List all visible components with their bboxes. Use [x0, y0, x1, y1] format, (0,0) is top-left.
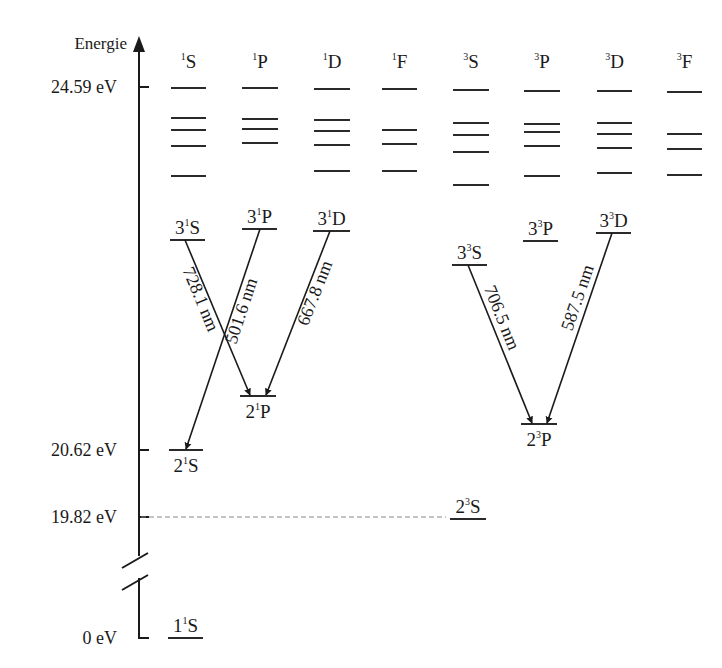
term-column-3D: 3D [597, 51, 632, 173]
wavelength-label: 667.8 nm [293, 258, 336, 329]
state-label: 31D [317, 208, 345, 229]
term-column-3P: 3P [524, 51, 560, 176]
term-header: 1S [181, 51, 197, 72]
axis-tick-label: 0 eV [83, 628, 118, 648]
term-columns: 1S1P1D1F3S3P3D3F [171, 51, 702, 185]
wavelength-label: 706.5 nm [480, 282, 524, 353]
state-3-3P: 33P [523, 218, 558, 241]
energy-axis: Energie24.59 eV20.62 eV19.82 eV0 eV [51, 34, 446, 648]
term-column-1F: 1F [382, 51, 417, 171]
wavelength-label: 728.1 nm [179, 264, 224, 334]
term-column-3F: 3F [667, 51, 702, 175]
axis-arrow-icon [133, 36, 145, 52]
state-label: 23P [526, 429, 551, 450]
state-3-1D: 31D [313, 208, 350, 231]
term-header: 3F [677, 51, 693, 72]
wavelength-label: 501.6 nm [221, 275, 262, 346]
axis-line-lower [139, 578, 149, 638]
state-2-1P: 21P [240, 396, 276, 422]
axis-tick-label: 24.59 eV [51, 77, 117, 97]
labeled-states: 31S31P31D21P21S11S33S33P33D23P23S [168, 206, 631, 638]
state-2-1S: 21S [169, 450, 203, 476]
state-label: 33S [457, 242, 482, 263]
state-3-1P: 31P [242, 206, 277, 229]
term-column-3S: 3S [453, 51, 489, 185]
transition-arrow [547, 233, 612, 423]
term-column-1D: 1D [314, 51, 350, 171]
transition-3-1D-to-2-1P: 667.8 nm [266, 231, 336, 395]
state-3-3D: 33D [596, 210, 631, 233]
state-label: 31P [247, 206, 272, 227]
term-column-1P: 1P [242, 51, 278, 143]
axis-break-mark [122, 575, 148, 590]
term-header: 1P [252, 51, 268, 72]
state-3-3S: 33S [452, 242, 487, 265]
state-label: 33D [599, 210, 627, 231]
state-label: 23S [455, 496, 480, 517]
term-header: 3P [534, 51, 550, 72]
state-label: 21S [173, 455, 198, 476]
axis-tick-label: 20.62 eV [51, 440, 117, 460]
term-column-1S: 1S [171, 51, 206, 176]
axis-tick-label: 19.82 eV [51, 507, 117, 527]
state-2-3P: 23P [521, 424, 557, 450]
helium-energy-level-diagram: Energie24.59 eV20.62 eV19.82 eV0 eV 1S1P… [0, 0, 722, 668]
transition-3-3D-to-2-3P: 587.5 nm [547, 233, 612, 423]
term-header: 1D [323, 51, 342, 72]
state-label: 33P [528, 218, 553, 239]
state-2-3S: 23S [450, 496, 486, 519]
transition-3-3S-to-2-3P: 706.5 nm [468, 265, 532, 423]
wavelength-label: 587.5 nm [557, 262, 598, 333]
state-1-1S: 11S [168, 615, 203, 638]
state-label: 21P [245, 401, 270, 422]
state-label: 11S [173, 615, 198, 636]
transitions: 728.1 nm501.6 nm667.8 nm706.5 nm587.5 nm [179, 229, 612, 449]
term-header: 3S [463, 51, 479, 72]
term-header: 1F [392, 51, 408, 72]
state-3-1S: 31S [170, 217, 205, 240]
axis-break-mark [122, 553, 148, 568]
term-header: 3D [605, 51, 624, 72]
state-label: 31S [175, 217, 200, 238]
axis-label: Energie [74, 34, 127, 53]
